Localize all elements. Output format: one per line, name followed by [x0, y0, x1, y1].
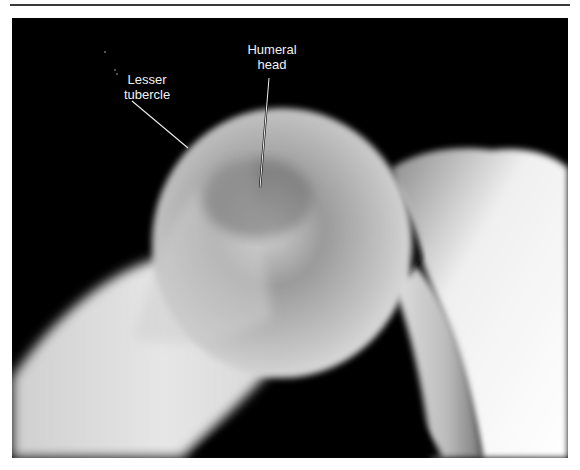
lesser-tubercle-pointer	[132, 101, 188, 148]
label-line: tubercle	[117, 87, 177, 102]
lesser-tubercle-label: Lesser tubercle	[117, 72, 177, 102]
trabecular-zone	[202, 158, 312, 238]
label-line: Humeral	[237, 42, 307, 57]
humeral-head-label: Humeral head	[237, 42, 307, 72]
label-line: head	[237, 57, 307, 72]
label-line: Lesser	[117, 72, 177, 87]
marker-dot	[104, 51, 106, 53]
marker-dot	[114, 69, 116, 71]
top-rule-divider	[10, 4, 570, 6]
xray-image: Lesser tubercle Humeral head	[12, 18, 568, 458]
xray-illustration	[12, 18, 568, 458]
